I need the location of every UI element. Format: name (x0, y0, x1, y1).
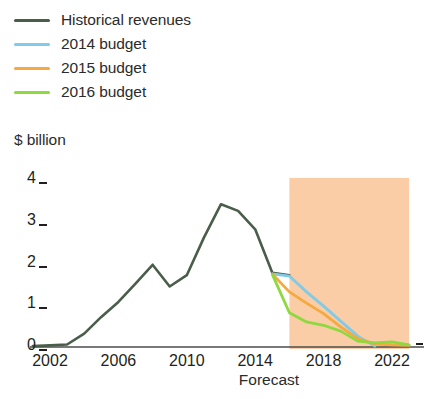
y-tick-label-3: 3 (14, 211, 36, 229)
series-line-historical-revenues (33, 204, 290, 346)
y-tick-mark-4 (39, 182, 47, 184)
revenue-forecast-chart: Historical revenues 2014 budget 2015 bud… (0, 0, 428, 399)
y-tick-mark-1 (39, 307, 47, 309)
y-tick-mark-2 (39, 266, 47, 268)
x-axis-end-tick (416, 343, 423, 345)
y-tick-mark-0 (39, 349, 47, 351)
x-tick-label-2006: 2006 (88, 352, 148, 370)
x-tick-label-2022: 2022 (362, 352, 422, 370)
x-tick-label-2002: 2002 (20, 352, 80, 370)
x-tick-label-2014: 2014 (225, 352, 285, 370)
y-tick-label-4: 4 (14, 169, 36, 187)
y-tick-mark-3 (39, 224, 47, 226)
y-tick-label-1: 1 (14, 294, 36, 312)
forecast-caption-text: Forecast (239, 371, 299, 388)
x-tick-label-2010: 2010 (157, 352, 217, 370)
plot-svg (0, 0, 428, 399)
plot-area (0, 0, 428, 399)
x-tick-label-2018: 2018 (294, 352, 354, 370)
y-tick-label-2: 2 (14, 253, 36, 271)
forecast-caption: Forecast (0, 371, 428, 389)
